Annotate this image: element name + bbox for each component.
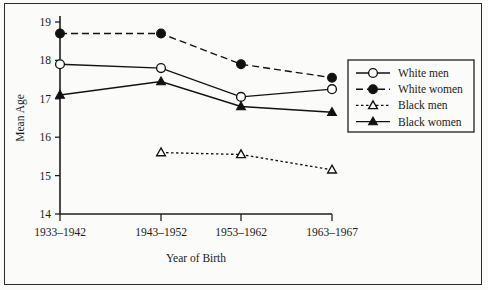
- data-point: [157, 148, 166, 156]
- data-point: [328, 73, 337, 82]
- axis-lines: [60, 16, 332, 214]
- data-point: [237, 92, 246, 101]
- series-line: [60, 82, 332, 113]
- y-axis-title: Mean Age: [14, 94, 27, 142]
- data-point: [328, 165, 337, 173]
- legend: White menWhite womenBlack menBlack women: [348, 60, 474, 132]
- data-point: [157, 77, 166, 85]
- data-point: [157, 64, 166, 73]
- series-white-men: [56, 60, 337, 101]
- legend-label: Black men: [398, 99, 448, 111]
- y-tick-label: 18: [40, 54, 52, 66]
- y-tick-label: 17: [40, 93, 52, 105]
- x-tick-label: 1963–1967: [306, 226, 358, 238]
- y-tick-label: 14: [40, 208, 52, 220]
- x-axis-title: Year of Birth: [166, 252, 226, 264]
- series-line: [60, 34, 332, 78]
- y-axis-ticks: 141516171819: [40, 16, 61, 220]
- series-white-women: [56, 29, 337, 82]
- series-black-men: [157, 148, 337, 173]
- x-tick-label: 1953–1962: [215, 226, 267, 238]
- figure-container: 1415161718191933–19421943–19521953–19621…: [0, 0, 488, 290]
- legend-marker: [369, 85, 378, 94]
- x-axis-ticks: 1933–19421943–19521953–19621963–1967: [34, 214, 358, 238]
- y-tick-label: 15: [40, 170, 52, 182]
- axes-group: [60, 16, 332, 214]
- data-point: [56, 29, 65, 38]
- data-point: [56, 60, 65, 69]
- data-point: [328, 85, 337, 94]
- data-point: [237, 60, 246, 69]
- x-tick-label: 1933–1942: [34, 226, 86, 238]
- y-tick-label: 19: [40, 16, 52, 28]
- legend-label: White women: [398, 83, 463, 95]
- legend-label: White men: [398, 67, 449, 79]
- data-point: [157, 29, 166, 38]
- y-tick-label: 16: [40, 131, 52, 143]
- legend-label: Black women: [398, 116, 462, 128]
- series-black-women: [56, 77, 337, 116]
- x-tick-label: 1943–1952: [135, 226, 187, 238]
- legend-marker: [369, 69, 378, 78]
- line-chart: 1415161718191933–19421943–19521953–19621…: [0, 0, 488, 290]
- series-line: [161, 153, 332, 170]
